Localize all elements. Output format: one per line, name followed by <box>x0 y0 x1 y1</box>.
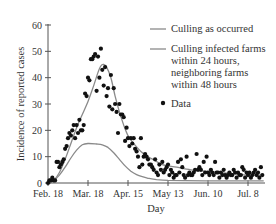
data-point <box>205 155 209 159</box>
legend-label-culling-fast-2: within 24 hours, <box>171 55 240 66</box>
data-point <box>139 136 143 140</box>
data-point <box>82 123 86 127</box>
data-point <box>153 157 157 161</box>
data-point <box>70 128 74 132</box>
data-point <box>106 86 110 90</box>
data-point <box>53 178 57 182</box>
x-tick-label: Jun. 10 <box>194 188 223 199</box>
data-point <box>239 173 243 177</box>
x-tick-label: Mar. 18 <box>72 188 103 199</box>
data-point <box>122 115 126 119</box>
data-point <box>85 94 89 98</box>
data-point <box>140 163 144 167</box>
data-point <box>195 152 199 156</box>
legend-marker-data <box>161 101 165 105</box>
data-point <box>177 170 181 174</box>
data-point <box>110 107 114 111</box>
y-tick-label: 0 <box>37 178 42 189</box>
y-axis-title: Incidence of reported cases <box>15 47 26 162</box>
legend-label-data: Data <box>171 98 191 109</box>
data-point <box>96 55 100 59</box>
legend-label-culling-fast-4: within 48 hours <box>171 79 237 90</box>
legend: Culling as occurred Culling infected far… <box>150 23 265 109</box>
legend-label-culling-fast-1: Culling infected farms <box>171 43 265 54</box>
data-point <box>156 173 160 177</box>
data-point <box>77 118 81 122</box>
data-point <box>160 160 164 164</box>
data-point <box>125 126 129 130</box>
x-tick-label: Apr. 15 <box>113 188 143 199</box>
data-point <box>166 163 170 167</box>
data-point <box>256 170 260 174</box>
data-point <box>136 155 140 159</box>
y-tick-label: 10 <box>32 151 42 162</box>
data-point <box>87 78 91 82</box>
x-tick-label: May 13 <box>153 188 184 199</box>
y-tick-label: 40 <box>32 72 42 83</box>
data-point <box>102 84 106 88</box>
data-point <box>69 134 73 138</box>
data-point <box>80 128 84 132</box>
data-point <box>116 131 120 135</box>
legend-label-culling-as-occurred: Culling as occurred <box>171 23 254 34</box>
data-point <box>179 157 183 161</box>
data-point <box>146 157 150 161</box>
data-point <box>132 136 136 140</box>
data-point <box>112 86 116 90</box>
data-point <box>113 102 117 106</box>
data-point <box>199 168 203 172</box>
data-point <box>260 173 264 177</box>
data-point <box>105 94 109 98</box>
data-point <box>222 168 226 172</box>
x-axis-title: Day <box>147 203 165 214</box>
data-point <box>97 76 101 80</box>
data-point <box>130 141 134 145</box>
data-point <box>75 123 79 127</box>
data-point <box>202 160 206 164</box>
data-point <box>180 165 184 169</box>
data-point <box>135 149 139 153</box>
y-tick-label: 30 <box>32 99 42 110</box>
data-point <box>65 144 69 148</box>
legend-label-culling-fast-3: neighboring farms <box>171 67 248 78</box>
y-tick-label: 20 <box>32 125 42 136</box>
data-point <box>95 89 99 93</box>
data-point <box>259 165 263 169</box>
data-point <box>103 65 107 69</box>
chart: 0102030405060 Feb. 18Mar. 18Apr. 15May 1… <box>0 0 276 224</box>
data-point <box>109 73 113 77</box>
data-point <box>185 155 189 159</box>
x-tick-label: Feb. 18 <box>33 188 63 199</box>
y-tick-label: 50 <box>32 46 42 57</box>
data-point <box>73 136 77 140</box>
data-point <box>213 160 217 164</box>
data-point <box>117 102 121 106</box>
data-point <box>115 110 119 114</box>
data-point <box>99 47 103 51</box>
y-tick-label: 60 <box>32 20 42 31</box>
data-point <box>62 157 66 161</box>
x-tick-label: Jul. 8 <box>237 188 259 199</box>
